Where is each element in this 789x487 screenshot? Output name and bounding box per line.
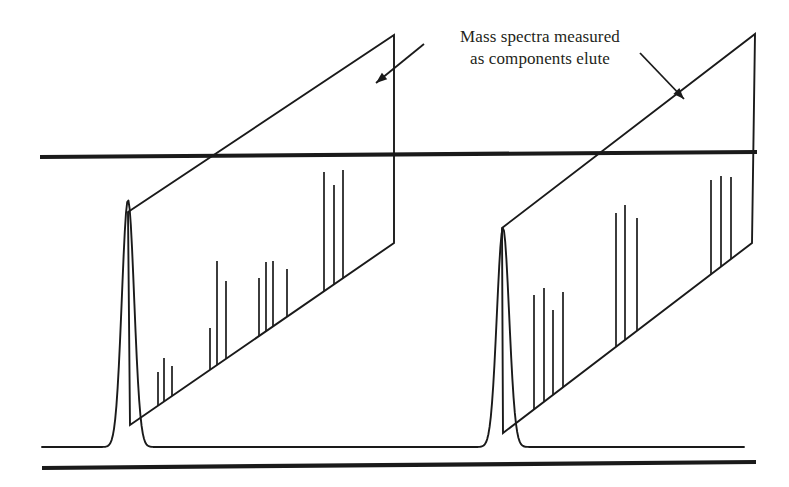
mass-spectrum-1 xyxy=(128,35,394,425)
mass-spectra-group xyxy=(128,34,755,433)
gcms-figure: Mass spectra measured as components elut… xyxy=(0,0,789,487)
annotation-caption: Mass spectra measured as components elut… xyxy=(417,26,663,71)
mass-spectrum-2-plane-outline xyxy=(502,34,755,433)
mass-spectrum-2 xyxy=(502,34,755,433)
figure-canvas xyxy=(0,0,789,487)
caption-line-2: as components elute xyxy=(417,48,663,70)
top-rule xyxy=(40,152,757,157)
bottom-rule xyxy=(42,462,756,468)
caption-line-1: Mass spectra measured xyxy=(417,26,663,48)
mass-spectrum-1-plane-outline xyxy=(128,35,394,425)
chromatogram-baseline-trace xyxy=(42,201,744,448)
chromatogram-trace xyxy=(42,201,744,448)
